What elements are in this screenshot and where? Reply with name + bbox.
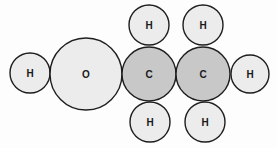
atom-label: H <box>201 117 208 128</box>
atom-h-right: H <box>231 55 269 93</box>
atom-label: H <box>26 68 33 79</box>
atom-h-left: H <box>10 53 50 93</box>
atom-label: C <box>199 69 206 80</box>
molecule-svg: HOHHHHCCH <box>0 0 277 148</box>
atom-c1: C <box>122 47 176 101</box>
ethanol-molecule-diagram: HOHHHHCCH <box>0 0 277 148</box>
atom-label: O <box>82 69 90 80</box>
atom-c2-h-bottom: H <box>185 102 225 142</box>
atom-label: H <box>246 69 253 80</box>
atom-label: H <box>145 20 152 31</box>
atom-c2: C <box>176 47 230 101</box>
atom-c1-h-top: H <box>129 5 169 45</box>
atom-c2-h-top: H <box>183 5 223 45</box>
atom-label: H <box>146 117 153 128</box>
atom-o: O <box>50 38 122 110</box>
atom-label: H <box>199 20 206 31</box>
atom-c1-h-bottom: H <box>130 102 170 142</box>
atom-label: C <box>145 69 152 80</box>
